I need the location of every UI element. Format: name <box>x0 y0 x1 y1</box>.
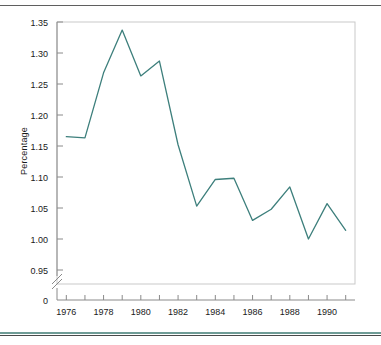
x-tick-label: 1984 <box>205 307 225 317</box>
y-tick-label: 1.25 <box>30 80 48 90</box>
y-axis-title: Percentage <box>19 111 29 191</box>
chart-figure: Percentage 1.351.301.251.201.151.101.051… <box>0 6 381 328</box>
y-tick-label: 1.35 <box>30 18 48 28</box>
line-chart-svg: 1.351.301.251.201.151.101.051.000.950197… <box>0 6 381 328</box>
x-tick-label: 1986 <box>243 307 263 317</box>
y-tick-label: 1.00 <box>30 235 48 245</box>
y-tick-label: 1.15 <box>30 142 48 152</box>
x-tick-label: 1980 <box>131 307 151 317</box>
x-tick-label: 1976 <box>56 307 76 317</box>
y-tick-label: 1.20 <box>30 111 48 121</box>
y-tick-label: 0 <box>43 296 48 306</box>
x-tick-label: 1988 <box>280 307 300 317</box>
bottom-horizontal-rule <box>0 335 381 336</box>
plot-frame <box>57 22 355 284</box>
top-caption-fragment <box>58 0 358 2</box>
x-tick-label: 1978 <box>94 307 114 317</box>
y-tick-label: 0.95 <box>30 266 48 276</box>
y-tick-label: 1.30 <box>30 49 48 59</box>
x-tick-label: 1990 <box>317 307 337 317</box>
y-tick-label: 1.10 <box>30 173 48 183</box>
y-tick-label: 1.05 <box>30 204 48 214</box>
figure-page: Percentage 1.351.301.251.201.151.101.051… <box>0 0 381 345</box>
x-tick-label: 1982 <box>168 307 188 317</box>
bottom-accent-rule <box>0 332 381 334</box>
data-series-line <box>66 30 345 239</box>
